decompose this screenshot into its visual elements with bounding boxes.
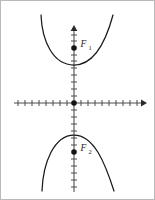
focus-2-label: F 2 — [80, 143, 92, 155]
focus-2-label-subscript: 2 — [89, 148, 92, 155]
origin-point — [71, 100, 77, 106]
focus-1-label-text: F — [80, 39, 87, 49]
focus-2-point — [71, 149, 77, 155]
upper-branch-curve — [41, 15, 113, 65]
x-axis-arrowhead — [141, 100, 147, 107]
figure-canvas: F 1 F 2 — [1, 1, 155, 200]
lower-branch-curve — [42, 135, 114, 191]
focus-2-label-text: F — [80, 143, 87, 153]
focus-1-label: F 1 — [80, 39, 92, 51]
focus-1-point — [71, 45, 77, 51]
hyperbola-figure: F 1 F 2 — [0, 0, 155, 200]
focus-1-label-subscript: 1 — [89, 44, 92, 51]
x-axis-group — [14, 100, 147, 107]
y-axis-arrowhead — [71, 25, 78, 31]
